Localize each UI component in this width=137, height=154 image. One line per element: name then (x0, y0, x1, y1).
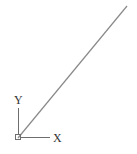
ucs-y-label: Y (14, 93, 23, 107)
ucs-x-label: X (53, 131, 62, 145)
drawn-line[interactable] (18, 6, 127, 138)
ucs-icon: Y X (14, 93, 62, 145)
drawing-canvas[interactable]: Y X (0, 0, 137, 154)
